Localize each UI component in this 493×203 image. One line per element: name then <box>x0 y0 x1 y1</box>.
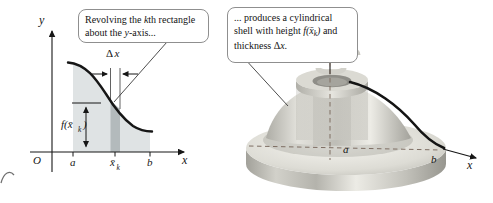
height-label: f(x̄ <box>61 118 73 131</box>
label-a-3d: a <box>343 143 349 155</box>
delta-x-label: Δ <box>106 47 113 59</box>
delta-x-var: x <box>114 47 120 59</box>
x-axis-label-3d: x <box>466 158 473 172</box>
callout-cylindrical-shell: ... produces a cylindrical shell with he… <box>227 7 358 63</box>
callout-text: thickness Δ <box>234 40 280 51</box>
shell-inner-hole-floor <box>317 78 347 87</box>
callout-text: and <box>320 25 337 36</box>
label-b-3d: b <box>431 153 437 165</box>
height-label-close: ) <box>82 118 87 131</box>
callout-text: about the <box>85 27 124 38</box>
callout-right-leader <box>244 58 288 106</box>
callout-math-fxk: f(x̄ <box>303 25 314 36</box>
callout-right-line2: shell with height f(x̄k) and <box>234 24 351 39</box>
callout-text: ... produces a cylindrical <box>234 12 332 23</box>
callout-left-line2: about the y-axis... <box>85 26 202 39</box>
x-axis-3d <box>443 149 476 158</box>
callout-right-line3: thickness Δx. <box>234 39 351 52</box>
callout-revolving-rectangle: Revolving the kth rectangle about the y-… <box>78 9 209 43</box>
callout-left-leader <box>114 42 167 102</box>
stray-mark <box>1 172 14 183</box>
callout-text: . <box>285 40 288 51</box>
tick-label-a: a <box>70 156 76 168</box>
callout-text: th rectangle <box>148 14 195 25</box>
shell-method-figure: y x O a x̄ k b Δ x f(x̄ k ) <box>0 0 493 203</box>
callout-right-line1: ... produces a cylindrical <box>234 11 351 24</box>
callout-text: shell with height <box>234 25 303 36</box>
callout-text: Revolving the <box>85 14 144 25</box>
origin-label: O <box>33 154 41 166</box>
rotation-arrow-curl <box>318 68 344 73</box>
y-axis-label: y <box>38 13 45 27</box>
tick-label-xbar: x̄ <box>109 156 115 168</box>
tick-label-xbar-sub: k <box>117 163 121 172</box>
callout-text: -axis... <box>129 27 156 38</box>
callout-left-line1: Revolving the kth rectangle <box>85 13 202 26</box>
tick-label-b: b <box>147 156 153 168</box>
x-axis-label: x <box>181 153 188 167</box>
